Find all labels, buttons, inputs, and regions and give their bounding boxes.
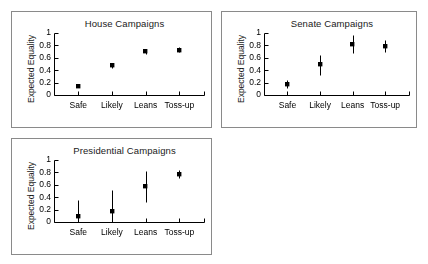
plot-canvas-president — [12, 139, 213, 256]
plot-canvas-house — [12, 12, 213, 129]
empty-panel-slot — [221, 138, 417, 255]
axes-house — [12, 12, 213, 129]
panel-senate-campaigns: Senate Campaigns Expected Equality — [221, 11, 417, 128]
panel-presidential-campaigns: Presidential Campaigns Expected Equality — [11, 138, 212, 255]
plot-canvas-senate — [222, 12, 418, 129]
axes-senate — [222, 12, 418, 129]
axes-president — [12, 139, 213, 256]
panel-house-campaigns: House Campaigns Expected Equality — [11, 11, 212, 128]
figure-grid: House Campaigns Expected Equality Senate… — [0, 0, 428, 264]
